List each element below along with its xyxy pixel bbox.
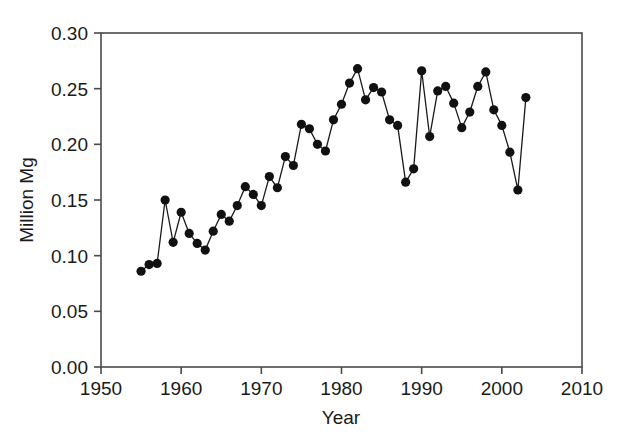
x-tick-label: 2010: [561, 378, 603, 399]
data-point: [353, 64, 362, 73]
data-point: [225, 217, 234, 226]
data-point: [441, 82, 450, 91]
data-point: [241, 182, 250, 191]
data-point: [465, 107, 474, 116]
x-tick-label: 1980: [320, 378, 362, 399]
y-tick-label: 0.25: [51, 79, 88, 100]
data-point: [377, 87, 386, 96]
y-tick-label: 0.30: [51, 23, 88, 44]
data-point: [361, 95, 370, 104]
x-tick-label: 2000: [481, 378, 523, 399]
data-point: [513, 185, 522, 194]
data-point: [417, 66, 426, 75]
data-point: [409, 164, 418, 173]
data-point: [369, 83, 378, 92]
data-point: [233, 201, 242, 210]
data-point: [497, 121, 506, 130]
data-point: [169, 238, 178, 247]
data-point: [385, 115, 394, 124]
data-point: [209, 227, 218, 236]
data-point: [505, 148, 514, 157]
x-tick-label: 1970: [240, 378, 282, 399]
data-point: [449, 99, 458, 108]
data-point: [177, 208, 186, 217]
x-tick-label: 1990: [401, 378, 443, 399]
data-point: [273, 183, 282, 192]
data-point: [201, 246, 210, 255]
y-tick-label: 0.10: [51, 246, 88, 267]
data-point: [297, 120, 306, 129]
data-point: [393, 121, 402, 130]
data-point: [345, 79, 354, 88]
data-point: [401, 178, 410, 187]
data-point: [185, 229, 194, 238]
data-point: [145, 260, 154, 269]
y-axis-title: Million Mg: [16, 157, 37, 243]
data-point: [433, 86, 442, 95]
data-point: [337, 100, 346, 109]
data-point: [136, 267, 145, 276]
line-chart: 0.000.050.100.150.200.250.30 19501960197…: [0, 0, 635, 436]
y-tick-label: 0.20: [51, 134, 88, 155]
data-point: [473, 82, 482, 91]
x-tick-label: 1960: [160, 378, 202, 399]
data-point: [521, 93, 530, 102]
y-tick-label: 0.15: [51, 190, 88, 211]
y-tick-label: 0.05: [51, 301, 88, 322]
data-point: [321, 146, 330, 155]
data-point: [217, 210, 226, 219]
data-point: [193, 239, 202, 248]
data-point: [305, 124, 314, 133]
data-point: [249, 190, 258, 199]
data-point: [489, 105, 498, 114]
data-point: [481, 67, 490, 76]
data-point: [329, 115, 338, 124]
data-point: [313, 140, 322, 149]
y-tick-label: 0.00: [51, 357, 88, 378]
x-tick-label: 1950: [80, 378, 122, 399]
chart-background: [0, 0, 635, 436]
data-point: [289, 161, 298, 170]
data-point: [161, 195, 170, 204]
data-point: [457, 123, 466, 132]
data-point: [265, 172, 274, 181]
x-axis-title: Year: [322, 407, 361, 428]
data-point: [281, 152, 290, 161]
data-point: [153, 259, 162, 268]
data-point: [425, 132, 434, 141]
data-point: [257, 201, 266, 210]
